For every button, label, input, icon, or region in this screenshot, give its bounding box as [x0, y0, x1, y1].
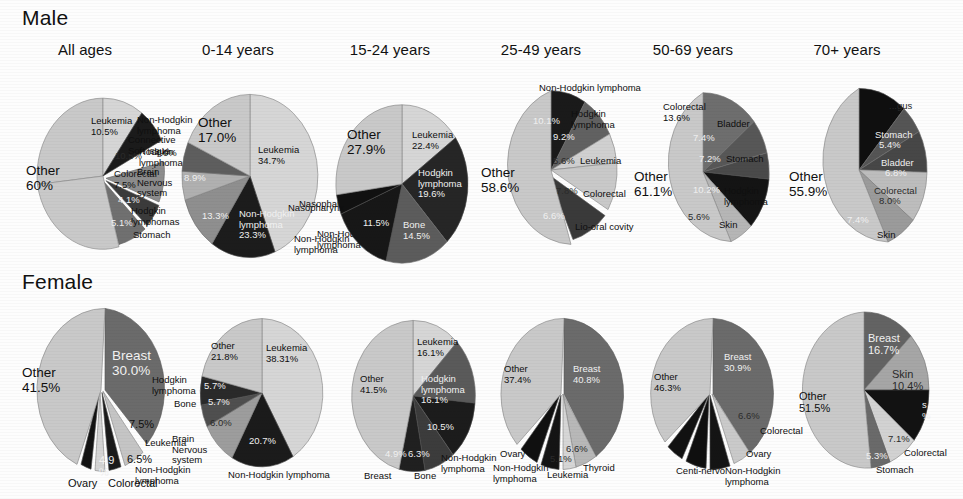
label-ovary-pct: 4.9 %	[99, 454, 114, 478]
label-stomach: Stomach	[726, 154, 764, 165]
label-nhl-pct: 10.5%	[427, 422, 454, 433]
label-leukemia-pct: 5.1%	[550, 454, 572, 465]
label-other: Other 46.3%	[654, 372, 681, 393]
label-breast: Breast 16.7%	[868, 332, 900, 356]
label-nhl-pct: 20.7%	[249, 436, 276, 447]
label-bladder-pct: 6.8%	[885, 168, 907, 179]
label-skin: Skin	[719, 220, 737, 231]
label-nhl-pct: 10.1%	[533, 116, 560, 127]
pie-chart-female-0-14: Other 21.8% Leukemia 38.31% Hodgkin lymp…	[196, 315, 346, 480]
label-skin: Skin	[877, 230, 895, 241]
label-oral-pct: 6.6%	[543, 211, 565, 222]
pie-chart-female-50-69: Other 46.3% Breast 30.9% 6.6% Colorectal…	[648, 318, 803, 483]
label-leukemia-pct: 7.5%	[129, 418, 154, 430]
label-non-hodgkin-lymphoma: Non-Hodgkin lymphoma 23.3%	[239, 209, 294, 241]
pie-chart-female-15-24: Other 41.5% Leukemia 16.1% Hodgkin lymph…	[345, 318, 500, 483]
column-header-all-ages: All ages	[10, 41, 160, 58]
pie-chart-male-70plus: Other 55.9% ...gus Stomach 5.4% Bladder …	[797, 82, 957, 260]
column-header-70plus: 70+ years	[772, 41, 922, 58]
label-breast: Breast 40.8%	[573, 364, 600, 385]
label-other: Other 17.0%	[198, 116, 236, 145]
label-centi-nervo: Centi-nervo	[676, 466, 725, 477]
label-colorectal: Colorectal	[904, 448, 947, 459]
label-lio-oral-cavity: Lio-oral covity	[575, 222, 634, 233]
pie-svg	[648, 318, 803, 483]
label-breast: Breast 30.0%	[112, 349, 151, 378]
pie-chart-male-50-69: Other 61.1% Colorectal 13.6% Bladder 7.4…	[641, 86, 801, 258]
pie-chart-female-25-49: Other 37.4% Breast 40.8% 6.6% Thyroid 5.…	[497, 318, 652, 483]
label-non-hodgkin-lymphoma: Non-Hodgkin lymphoma	[725, 466, 780, 487]
label-leukemia: Leukemia 16.1%	[417, 337, 458, 358]
label-leukemia: Leukemia 22.4%	[412, 130, 453, 151]
label-stomach-pct: 5.4%	[879, 140, 901, 151]
label-male-all-ages-brain: Brain Nervous system	[137, 167, 172, 199]
label-leukemia: Leukemia	[580, 156, 621, 167]
label-colorectal-pct: 7.1%	[888, 434, 910, 445]
figure-canvas: Male Female All ages 0-14 years 15-24 ye…	[0, 0, 963, 499]
label-nasopharynx: Nasopharynx	[288, 203, 344, 214]
label-skin-pct: 7.4%	[847, 215, 869, 226]
label-bladder: Bladder	[717, 119, 750, 130]
label-hodgkin-lymphomas: Hodgkin lymphomas	[131, 206, 180, 227]
label-non-hodgkin-lymphoma: Non-Hodgkin lymphoma	[228, 470, 330, 481]
label-leukemia: Leukemia	[547, 470, 588, 481]
label-leukemia: Leukemia 34.7%	[258, 145, 299, 166]
label-brain-pct: 6.0%	[210, 418, 232, 429]
label-hodgkin-lymphoma: Hodgkin lymphoma	[571, 109, 615, 130]
column-header-15-24: 15-24 years	[315, 41, 465, 58]
label-other: Other 21.8%	[211, 341, 238, 362]
label-bone-pct: 6.3%	[408, 449, 430, 460]
label-leukemia: Leukemia 10.5%	[91, 116, 132, 137]
label-other: Other 61.1%	[634, 170, 672, 199]
label-female-all-ages-ovary: Ovary	[68, 477, 97, 489]
label-colorectal-pct: 6.6%	[738, 411, 760, 422]
row-title-male: Male	[22, 6, 68, 30]
column-header-25-49: 25-49 years	[466, 41, 616, 58]
label-colorectal: Colorectal 13.6%	[663, 102, 706, 123]
column-header-50-69: 50-69 years	[618, 41, 768, 58]
label-stomach: Stomach	[876, 465, 914, 476]
label-stomach-pct: 5.3%	[866, 451, 888, 462]
label-bone-pct: 5.7%	[208, 397, 230, 408]
label-hodgkin-lymphoma: Hodgkin lymphoma	[152, 375, 196, 396]
pie-chart-male-15-24: Other 27.9% Leukemia 22.4% Hodgkin lymph…	[330, 100, 485, 270]
label-other: Other 37.4%	[504, 364, 531, 385]
label-skin: Skin 10.4%	[892, 368, 923, 392]
label-hodgkin-lymphoma: Hodgkin lymphoma 16.1%	[421, 374, 465, 406]
label-non-hodgkin-lymphoma: Non-Hodgkin lymphoma	[539, 83, 641, 94]
label-breast: Breast 30.9%	[724, 352, 751, 373]
label-other: Other 55.9%	[789, 170, 827, 199]
label-non-hodgkin-lymphoma: Non-Hodgkin lymphoma	[441, 453, 496, 474]
label-breast-pct: 4.9%	[385, 449, 407, 460]
row-title-female: Female	[22, 270, 93, 294]
label-leukemia: Leukemia 38.31%	[266, 343, 307, 364]
label-skin-pct: 5.6%	[688, 212, 710, 223]
label-cut-label: s	[922, 400, 927, 411]
label-bone: Bone	[174, 399, 196, 410]
label-male-all-ages-connective: Connective Soft issue	[128, 135, 176, 156]
label-hodgkin-lymphoma: Hodgkin lymphoma 19.6%	[418, 168, 462, 200]
label-stomach-pct: 7.2%	[699, 154, 721, 165]
label-ovary: Ovary	[746, 449, 771, 460]
label-pct-8-9: 8.9%	[184, 173, 206, 184]
label-other: Other 60%	[26, 164, 60, 193]
label-hodgkin-lymphoma: Hodgkin lymphoma	[724, 186, 768, 207]
label-hodgkin-pct: 10.2%	[693, 185, 720, 196]
label-female-all-ages-colorectal: Colorectal	[108, 477, 158, 489]
label-other: Other 58.6%	[481, 166, 519, 195]
column-header-0-14: 0-14 years	[163, 41, 313, 58]
label-non-hodgkin-lymphoma: Non-Hodgkin lymphoma	[294, 234, 349, 255]
label-nhl-pct: 11.5%	[363, 218, 389, 229]
label-colorectal: Colorectal	[583, 189, 626, 200]
label-other: Other 27.9%	[347, 128, 385, 157]
label-colorectal-pct: 7.8%	[556, 186, 578, 197]
label-other: Other 41.5%	[22, 366, 60, 395]
label-ovary: Ovary	[500, 449, 525, 460]
label-leukemia-pct: 5.6%	[553, 156, 575, 167]
label-stomach: Stomach	[133, 230, 171, 241]
label-non-hodgkin-lymphoma: Non-Hodgkin lymphoma	[493, 463, 548, 484]
label-breast: Breast	[364, 471, 391, 482]
label-hodgkin-pct: 5.7%	[204, 381, 226, 392]
label-other: Other 41.5%	[360, 374, 387, 395]
label-bone: Bone	[414, 471, 436, 482]
